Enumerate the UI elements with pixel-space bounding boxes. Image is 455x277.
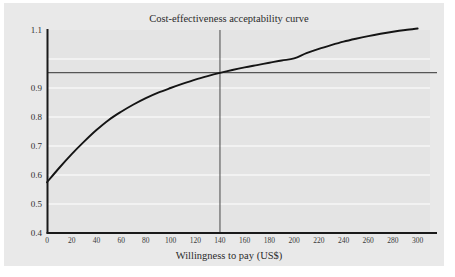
x-tick-label: 280 — [387, 236, 399, 245]
x-tick-label: 0 — [45, 236, 49, 245]
x-tick-label: 140 — [214, 236, 226, 245]
y-tick-label: 0.6 — [31, 170, 43, 180]
y-tick-label: 0.7 — [31, 141, 43, 151]
y-tick-label: 0.4 — [31, 228, 43, 238]
y-tick-label: 0.8 — [31, 112, 43, 122]
x-tick-label: 180 — [264, 236, 276, 245]
y-tick-label: 0.5 — [31, 199, 43, 209]
y-tick-label: 0.9 — [31, 83, 43, 93]
x-tick-label: 300 — [412, 236, 424, 245]
x-tick-label: 200 — [288, 236, 300, 245]
x-tick-label: 240 — [338, 236, 350, 245]
x-tick-label: 40 — [93, 236, 101, 245]
x-tick-label: 160 — [239, 236, 251, 245]
y-axis-tick-labels: 0.40.50.60.70.80.91.1 — [31, 25, 43, 238]
x-tick-label: 220 — [313, 236, 325, 245]
x-tick-label: 120 — [190, 236, 202, 245]
x-tick-label: 80 — [142, 236, 150, 245]
x-tick-label: 60 — [117, 236, 125, 245]
chart-figure: 0.40.50.60.70.80.91.1 020406080100120140… — [0, 0, 455, 277]
cost-effectiveness-acceptability-chart: 0.40.50.60.70.80.91.1 020406080100120140… — [0, 0, 455, 277]
chart-title: Cost-effectiveness acceptability curve — [149, 13, 309, 24]
x-tick-label: 100 — [165, 236, 177, 245]
y-tick-label: 1.1 — [31, 25, 42, 35]
x-axis-label: Willingness to pay (US$) — [176, 250, 283, 262]
x-axis-tick-labels: 0204060801001201401601802002202402602803… — [45, 236, 423, 245]
x-tick-label: 260 — [363, 236, 375, 245]
plot-area-background — [47, 30, 430, 233]
x-tick-label: 20 — [68, 236, 76, 245]
